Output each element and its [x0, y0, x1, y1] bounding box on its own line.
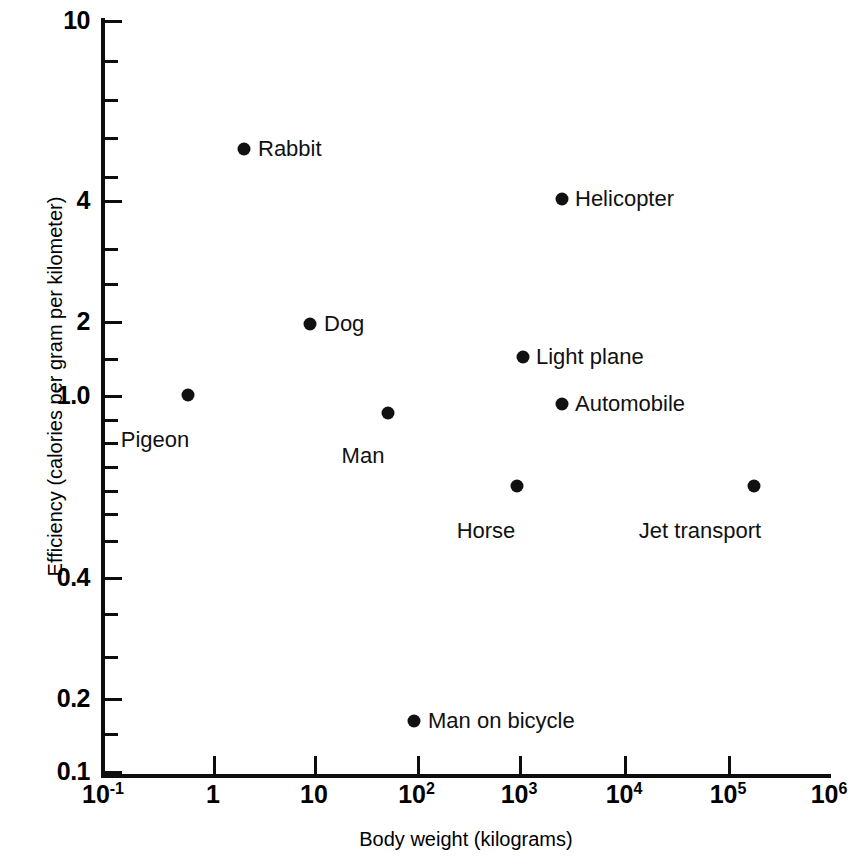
- data-point-pigeon: [182, 389, 195, 402]
- y-axis-tick: [105, 513, 118, 516]
- x-axis-tick-base: 10: [710, 780, 738, 808]
- x-axis-tick-label: 104: [606, 782, 643, 807]
- y-axis-tick: [105, 540, 118, 543]
- data-point-label-light-plane: Light plane: [536, 344, 644, 370]
- y-axis-tick: [105, 137, 118, 140]
- y-axis-title: Efficiency (calories per gram per kilome…: [44, 127, 67, 647]
- x-axis-tick-base: 10: [398, 780, 426, 808]
- y-axis-tick-label: 0.2: [0, 684, 90, 713]
- data-point-dog: [304, 318, 317, 331]
- y-axis-tick: [105, 771, 122, 774]
- data-point-automobile: [556, 398, 569, 411]
- y-axis-tick: [105, 490, 118, 493]
- data-point-jet-transport: [748, 480, 761, 493]
- data-point-label-man: Man: [342, 443, 385, 469]
- data-point-label-jet-transport: Jet transport: [639, 518, 761, 544]
- y-axis-tick: [105, 577, 122, 580]
- x-axis-tick-label: 105: [710, 782, 747, 807]
- x-axis-tick-base: 10: [300, 780, 328, 808]
- y-axis-tick: [105, 656, 118, 659]
- scatter-chart-figure: 10421.00.40.20.1 10-1110102103104105106 …: [0, 0, 856, 867]
- x-axis-tick-label: 103: [501, 782, 538, 807]
- y-axis-tick: [105, 99, 118, 102]
- y-axis-tick: [105, 176, 118, 179]
- y-axis-tick: [105, 419, 118, 422]
- data-point-label-dog: Dog: [324, 311, 364, 337]
- data-point-label-pigeon: Pigeon: [121, 427, 190, 453]
- y-axis-tick: [105, 20, 122, 23]
- y-axis-line: [101, 18, 105, 778]
- data-point-label-helicopter: Helicopter: [575, 186, 674, 212]
- x-axis-tick-exponent: 5: [737, 780, 746, 797]
- x-axis-tick-exponent: 6: [838, 780, 847, 797]
- data-point-rabbit: [238, 143, 251, 156]
- x-axis-tick-label: 10-1: [82, 782, 124, 807]
- x-axis-tick-base: 10: [501, 780, 529, 808]
- y-axis-tick: [105, 248, 118, 251]
- data-point-label-rabbit: Rabbit: [258, 136, 322, 162]
- x-axis-tick-base: 10: [811, 780, 839, 808]
- x-axis-tick: [417, 756, 420, 774]
- x-axis-tick: [519, 756, 522, 774]
- y-axis-tick: [105, 466, 118, 469]
- x-axis-tick: [728, 756, 731, 774]
- data-point-label-automobile: Automobile: [575, 391, 685, 417]
- data-point-man-on-bicycle: [408, 715, 421, 728]
- y-axis-tick: [105, 200, 122, 203]
- y-axis-tick: [105, 395, 122, 398]
- x-axis-tick-exponent: 2: [426, 780, 436, 797]
- y-axis-tick: [105, 321, 122, 324]
- x-axis-tick-label: 106: [811, 782, 848, 807]
- y-axis-tick: [105, 60, 118, 63]
- y-axis-tick: [105, 698, 122, 701]
- x-axis-tick-exponent: 4: [633, 780, 642, 797]
- x-axis-tick-label: 10: [300, 782, 328, 807]
- y-axis-tick: [105, 733, 118, 736]
- y-axis-tick: [105, 358, 118, 361]
- y-axis-tick: [105, 613, 118, 616]
- data-point-light-plane: [517, 351, 530, 364]
- x-axis-tick-label: 1: [206, 782, 220, 807]
- x-axis-title: Body weight (kilograms): [101, 828, 831, 851]
- data-point-label-horse: Horse: [457, 518, 516, 544]
- x-axis-line: [101, 774, 831, 778]
- x-axis-tick-base: 10: [82, 780, 110, 808]
- x-axis-tick: [314, 756, 317, 774]
- x-axis-tick-exponent: -1: [110, 780, 124, 797]
- x-axis-tick-label: 102: [398, 782, 436, 807]
- x-axis-tick-base: 1: [206, 780, 220, 808]
- y-axis-tick: [105, 442, 118, 445]
- x-axis-tick: [624, 756, 627, 774]
- y-axis-tick-label: 0.1: [0, 757, 90, 786]
- x-axis-tick-base: 10: [606, 780, 634, 808]
- x-axis-tick-exponent: 3: [528, 780, 537, 797]
- data-point-label-man-on-bicycle: Man on bicycle: [428, 708, 575, 734]
- data-point-man: [382, 407, 395, 420]
- x-axis-tick: [213, 756, 216, 774]
- y-axis-tick: [105, 283, 118, 286]
- data-point-helicopter: [556, 193, 569, 206]
- y-axis-tick-label: 10: [0, 6, 90, 35]
- data-point-horse: [511, 480, 524, 493]
